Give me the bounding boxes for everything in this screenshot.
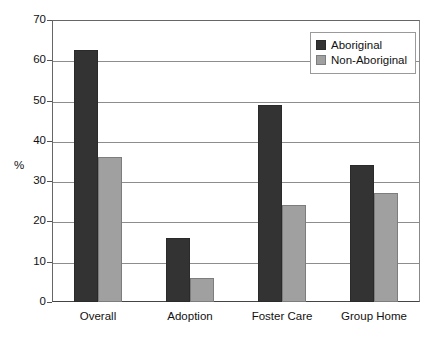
y-axis-tick-label: 40 (2, 135, 46, 147)
y-axis-tick-mark (47, 302, 52, 303)
legend-item-non-aboriginal: Non-Aboriginal (316, 53, 410, 67)
legend-swatch-icon-aboriginal (316, 40, 326, 50)
y-axis-tick-label: 50 (2, 95, 46, 107)
y-axis-title: % (14, 159, 24, 171)
x-axis-tick-label: Group Home (319, 310, 429, 322)
y-axis-tick-label: 0 (2, 296, 46, 308)
bar-adoption-non-aboriginal (190, 278, 214, 302)
y-axis-tick-label: 60 (2, 54, 46, 66)
bar-foster-care-aboriginal (258, 105, 282, 302)
bar-overall-non-aboriginal (98, 157, 122, 302)
y-axis-tick-label: 20 (2, 215, 46, 227)
chart-legend: Aboriginal Non-Aboriginal (310, 32, 416, 74)
legend-label-non-aboriginal: Non-Aboriginal (331, 54, 407, 66)
bar-chart: % 010203040506070 OverallAdoptionFoster … (0, 0, 439, 339)
bar-adoption-aboriginal (166, 238, 190, 302)
bar-group-home-aboriginal (350, 165, 374, 302)
y-axis-tick-label: 10 (2, 256, 46, 268)
legend-label-aboriginal: Aboriginal (331, 39, 382, 51)
bar-foster-care-non-aboriginal (282, 205, 306, 302)
bar-group-home-non-aboriginal (374, 193, 398, 302)
legend-item-aboriginal: Aboriginal (316, 38, 410, 52)
y-axis-tick-label: 70 (2, 14, 46, 26)
bar-overall-aboriginal (74, 50, 98, 302)
legend-swatch-icon-non-aboriginal (316, 55, 326, 65)
y-axis-tick-label: 30 (2, 175, 46, 187)
